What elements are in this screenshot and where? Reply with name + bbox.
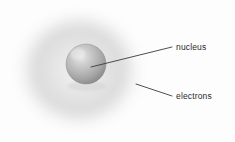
nucleus-sphere — [66, 44, 106, 91]
atom-diagram-figure: nucleus electrons — [0, 0, 235, 142]
nucleus-label: nucleus — [176, 43, 206, 52]
electrons-label: electrons — [176, 92, 212, 101]
atom-illustration — [0, 0, 235, 142]
